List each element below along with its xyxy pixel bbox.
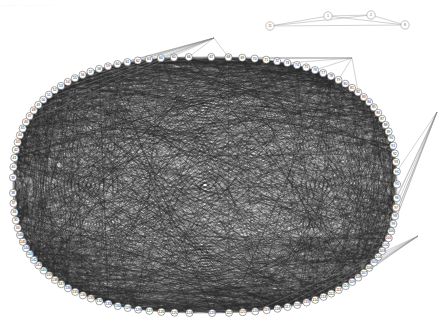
node-circle[interactable] — [342, 282, 349, 289]
node-circle[interactable] — [124, 59, 131, 66]
node-circle[interactable] — [16, 231, 23, 238]
graph-node[interactable]: 110 — [342, 282, 349, 289]
graph-node[interactable]: 60 — [114, 60, 121, 67]
graph-node[interactable]: 101 — [385, 235, 392, 242]
node-circle[interactable] — [104, 63, 111, 70]
graph-node[interactable]: 73 — [284, 59, 291, 66]
graph-node[interactable]: 109 — [349, 278, 356, 285]
graph-node[interactable]: 67 — [208, 53, 215, 60]
graph-node[interactable]: 113 — [320, 293, 327, 300]
graph-node[interactable]: 35 — [12, 217, 19, 224]
node-circle[interactable] — [12, 146, 19, 153]
graph-node[interactable]: 128 — [135, 306, 142, 313]
node-circle[interactable] — [349, 278, 356, 285]
graph-node[interactable]: 135 — [72, 288, 79, 295]
node-circle[interactable] — [393, 194, 400, 201]
node-circle[interactable] — [239, 309, 246, 316]
graph-node[interactable]: 116 — [294, 301, 301, 308]
node-circle[interactable] — [58, 281, 65, 288]
graph-node[interactable]: 120 — [252, 308, 259, 315]
node-circle[interactable] — [303, 64, 310, 71]
node-circle[interactable] — [95, 65, 102, 72]
node-circle[interactable] — [64, 78, 71, 85]
node-circle[interactable] — [327, 73, 334, 80]
graph-node[interactable]: 96 — [393, 194, 400, 201]
node-circle[interactable] — [87, 295, 94, 302]
graph-node[interactable]: 76 — [311, 67, 318, 74]
graph-node[interactable]: 71 — [263, 56, 270, 63]
node-circle[interactable] — [401, 21, 409, 29]
node-circle[interactable] — [114, 60, 121, 67]
node-circle[interactable] — [284, 59, 291, 66]
node-circle[interactable] — [19, 125, 26, 132]
graph-node[interactable]: 111 — [335, 286, 342, 293]
node-circle[interactable] — [342, 80, 349, 87]
graph-node[interactable]: 52 — [51, 87, 58, 94]
node-circle[interactable] — [393, 168, 400, 175]
graph-node[interactable]: 38 — [9, 189, 16, 196]
graph-node[interactable]: 130 — [114, 302, 121, 309]
graph-node[interactable]: 80 — [342, 80, 349, 87]
node-circle[interactable] — [134, 57, 141, 64]
graph-node[interactable]: 131 — [105, 300, 112, 307]
node-circle[interactable] — [392, 204, 399, 211]
graph-node[interactable]: 54 — [64, 78, 71, 85]
graph-node[interactable]: 42 — [12, 146, 19, 153]
graph-node[interactable]: 114 — [312, 296, 319, 303]
node-circle[interactable] — [266, 22, 274, 30]
graph-node[interactable]: 63 — [145, 56, 152, 63]
node-circle[interactable] — [79, 292, 86, 299]
graph-node[interactable]: 40 — [10, 163, 17, 170]
node-circle[interactable] — [388, 135, 395, 142]
graph-node[interactable]: 118 — [274, 305, 281, 312]
graph-node[interactable]: 75 — [303, 64, 310, 71]
node-circle[interactable] — [311, 67, 318, 74]
node-circle[interactable] — [385, 235, 392, 242]
graph-node[interactable]: 145 — [19, 238, 26, 245]
node-circle[interactable] — [294, 301, 301, 308]
node-circle[interactable] — [284, 303, 291, 310]
graph-node[interactable]: 129 — [124, 304, 131, 311]
node-circle[interactable] — [71, 75, 78, 82]
graph-node[interactable]: 92 — [391, 150, 398, 157]
node-circle[interactable] — [355, 274, 362, 281]
node-circle[interactable] — [320, 70, 327, 77]
graph-node[interactable]: 88 — [382, 121, 389, 128]
cluster-node[interactable]: 11 — [266, 22, 274, 30]
node-circle[interactable] — [392, 158, 399, 165]
graph-node[interactable]: 43 — [14, 139, 21, 146]
node-circle[interactable] — [391, 150, 398, 157]
graph-node[interactable]: 136 — [64, 285, 71, 292]
node-circle[interactable] — [312, 296, 319, 303]
node-circle[interactable] — [45, 91, 52, 98]
node-circle[interactable] — [208, 53, 215, 60]
node-circle[interactable] — [225, 309, 232, 316]
graph-node[interactable]: 45 — [19, 125, 26, 132]
node-circle[interactable] — [19, 238, 26, 245]
node-circle[interactable] — [72, 288, 79, 295]
graph-node[interactable]: 53 — [57, 82, 64, 89]
node-circle[interactable] — [263, 307, 270, 314]
node-circle[interactable] — [135, 306, 142, 313]
node-circle[interactable] — [51, 87, 58, 94]
graph-node[interactable]: 79 — [335, 76, 342, 83]
graph-node[interactable]: 121 — [239, 309, 246, 316]
node-circle[interactable] — [87, 68, 94, 75]
node-circle[interactable] — [320, 293, 327, 300]
node-circle[interactable] — [328, 290, 335, 297]
graph-node[interactable]: 94 — [393, 168, 400, 175]
graph-node[interactable]: 133 — [87, 295, 94, 302]
node-circle[interactable] — [105, 300, 112, 307]
node-circle[interactable] — [252, 308, 259, 315]
node-circle[interactable] — [9, 189, 16, 196]
graph-node[interactable]: 61 — [124, 59, 131, 66]
graph-node[interactable]: 108 — [355, 274, 362, 281]
node-circle[interactable] — [114, 302, 121, 309]
graph-node[interactable]: 89 — [385, 128, 392, 135]
graph-node[interactable]: 146 — [16, 231, 23, 238]
cluster-node[interactable]: 2 — [367, 11, 375, 19]
node-circle[interactable] — [185, 53, 192, 60]
graph-node[interactable]: 64 — [157, 55, 164, 62]
node-circle[interactable] — [251, 55, 258, 62]
node-circle[interactable] — [293, 61, 300, 68]
